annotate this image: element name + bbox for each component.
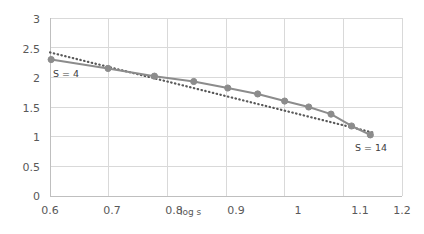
x-tick-label-1_2: 1.2 (382, 205, 422, 216)
data-point-marker (367, 132, 373, 138)
y-tick-label-3: 3 (4, 14, 40, 25)
x-tick-label-0_9: 0.9 (216, 205, 256, 216)
data-point-marker (348, 123, 354, 129)
y-tick-label-0: 0 (4, 191, 40, 202)
x-tick-label-1_1: 1.1 (340, 205, 380, 216)
y-tick-label-0_5: 0.5 (4, 162, 40, 173)
data-point-marker (255, 91, 261, 97)
data-point-marker (282, 98, 288, 104)
chart-plot-area (0, 0, 424, 234)
data-point-marker (328, 111, 334, 117)
y-tick-label-2: 2 (4, 73, 40, 84)
x-tick-label-1: 1 (278, 205, 318, 216)
data-point-marker (151, 73, 157, 79)
y-tick-label-1_5: 1.5 (4, 103, 40, 114)
chart-container: 3 2.5 2 1.5 1 0.5 0 0.6 0.7 0.8 0.9 1 1.… (0, 0, 424, 234)
y-tick-label-2_5: 2.5 (4, 44, 40, 55)
data-point-marker (48, 56, 54, 62)
x-axis-title: log s (180, 208, 201, 217)
data-point-marker (191, 78, 197, 84)
data-point-marker (225, 85, 231, 91)
x-tick-label-0_6: 0.6 (30, 205, 70, 216)
data-point-marker (306, 104, 312, 110)
data-point-marker (105, 65, 111, 71)
annotation-s-equals-14: S = 14 (355, 143, 387, 153)
x-tick-label-0_7: 0.7 (92, 205, 132, 216)
y-tick-label-1: 1 (4, 132, 40, 143)
annotation-s-equals-4: S = 4 (53, 69, 79, 79)
